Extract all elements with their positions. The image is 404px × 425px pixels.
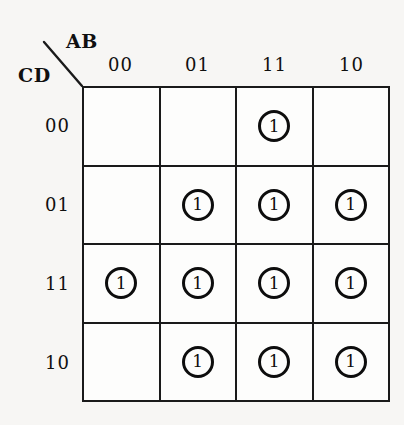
- column-header-row: 00 01 11 10: [82, 54, 390, 80]
- kmap-cell[interactable]: 1: [237, 88, 314, 167]
- kmap-cell[interactable]: 1: [314, 245, 391, 324]
- kmap-cell[interactable]: 1: [84, 167, 161, 246]
- kmap-cell[interactable]: 1: [314, 167, 391, 246]
- column-header-10: 10: [313, 54, 390, 80]
- row-header-00: 00: [22, 86, 78, 165]
- kmap-cell[interactable]: 1: [314, 88, 391, 167]
- kmap-grid: 1 1 1 1 1 1 1 1 1 1 1: [82, 86, 390, 402]
- minterm-marker: 1: [335, 267, 367, 299]
- row-header-01: 01: [22, 165, 78, 244]
- column-variable-label: AB: [66, 32, 98, 51]
- minterm-marker: 1: [258, 110, 290, 142]
- minterm-marker: 1: [182, 267, 214, 299]
- minterm-marker: 1: [335, 189, 367, 221]
- kmap-cell[interactable]: 1: [161, 245, 238, 324]
- kmap-cell[interactable]: 1: [84, 324, 161, 403]
- kmap-cell[interactable]: 1: [161, 167, 238, 246]
- minterm-marker: 1: [182, 189, 214, 221]
- row-header-10: 10: [22, 323, 78, 402]
- minterm-marker: 1: [182, 346, 214, 378]
- row-header-column: 00 01 11 10: [22, 86, 78, 402]
- karnaugh-map: AB CD 00 01 11 10 00 01 11 10 1 1 1 1 1: [0, 0, 404, 425]
- minterm-marker: 1: [258, 346, 290, 378]
- column-header-01: 01: [159, 54, 236, 80]
- kmap-cell[interactable]: 1: [237, 324, 314, 403]
- kmap-cell[interactable]: 1: [237, 245, 314, 324]
- kmap-cell[interactable]: 1: [84, 245, 161, 324]
- column-header-00: 00: [82, 54, 159, 80]
- row-variable-label: CD: [18, 66, 51, 85]
- kmap-cell[interactable]: 1: [161, 88, 238, 167]
- kmap-cell[interactable]: 1: [84, 88, 161, 167]
- minterm-marker: 1: [258, 189, 290, 221]
- kmap-cell[interactable]: 1: [237, 167, 314, 246]
- minterm-marker: 1: [105, 267, 137, 299]
- row-header-11: 11: [22, 244, 78, 323]
- minterm-marker: 1: [258, 267, 290, 299]
- minterm-marker: 1: [335, 346, 367, 378]
- column-header-11: 11: [236, 54, 313, 80]
- kmap-cell[interactable]: 1: [161, 324, 238, 403]
- kmap-cell[interactable]: 1: [314, 324, 391, 403]
